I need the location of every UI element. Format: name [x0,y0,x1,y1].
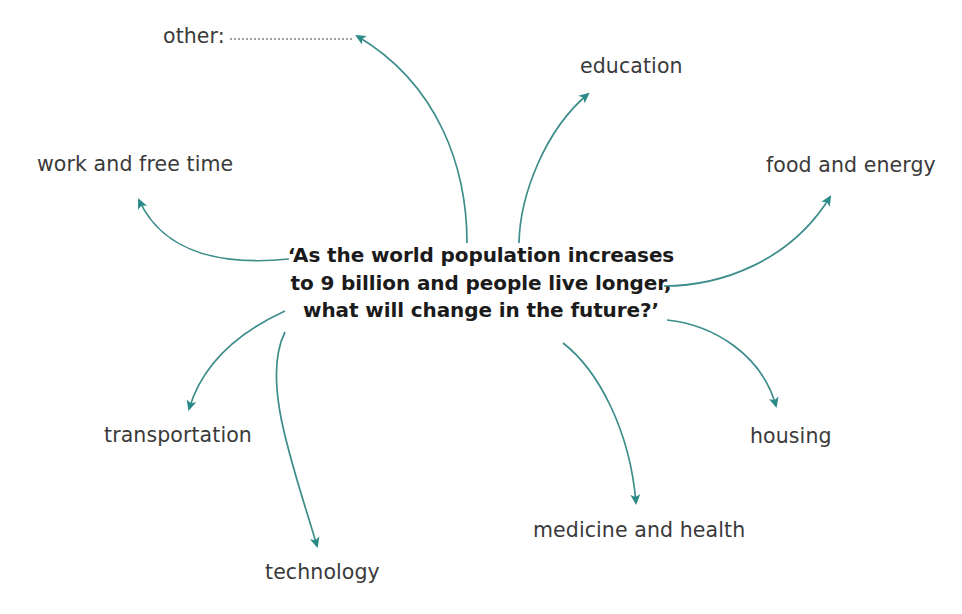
branch-label-technology[interactable]: technology [265,562,380,583]
center-question: ‘As the world population increases to 9 … [281,242,681,325]
mind-map-diagram: other: education food and energy housing… [0,0,962,614]
branch-label-food-and-energy[interactable]: food and energy [766,155,936,176]
arrow-transportation [189,311,285,409]
arrow-work-and-free-time [139,200,289,261]
arrow-education [519,94,588,243]
arrow-technology [276,332,317,546]
other-fill-in-line[interactable] [230,37,352,40]
center-question-line-1: ‘As the world population increases [281,242,681,270]
branch-label-other[interactable]: other: [163,26,352,47]
branch-label-transportation[interactable]: transportation [104,425,252,446]
arrow-medicine-and-health [563,343,636,503]
branch-label-other-text: other: [163,24,225,48]
arrow-food-and-energy [664,197,830,286]
branch-label-housing[interactable]: housing [750,426,832,447]
arrow-housing [667,320,776,406]
branch-label-education[interactable]: education [580,56,683,77]
branch-label-work-and-free-time[interactable]: work and free time [37,154,233,175]
center-question-line-3: what will change in the future?’ [281,297,681,325]
branch-label-medicine-and-health[interactable]: medicine and health [533,520,745,541]
arrow-other [357,36,467,243]
center-question-line-2: to 9 billion and people live longer, [281,270,681,298]
